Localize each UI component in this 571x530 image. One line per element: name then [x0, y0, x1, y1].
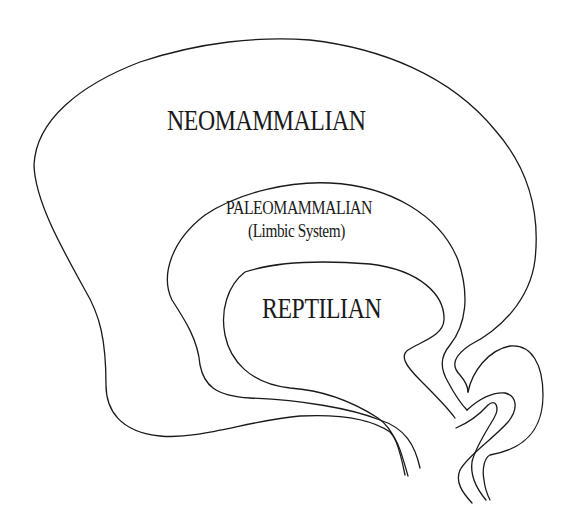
neomammalian-label: NEOMAMMALIAN	[167, 104, 366, 137]
reptilian-label: REPTILIAN	[262, 292, 381, 325]
paleomammalian-label: PALEOMAMMALIAN	[226, 198, 372, 218]
limbic-system-label: (Limbic System)	[248, 221, 345, 241]
cerebellum-outline	[468, 346, 543, 500]
brainstem-outer-curve	[458, 393, 515, 503]
triune-brain-diagram	[0, 0, 571, 530]
